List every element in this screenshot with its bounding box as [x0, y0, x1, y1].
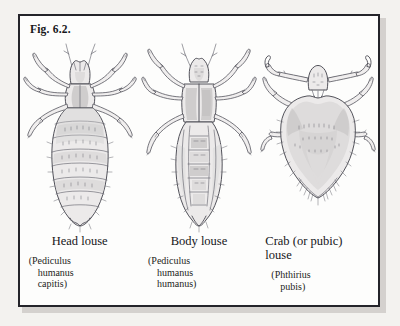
crab-louse-common-line-2: louse: [265, 248, 291, 262]
body-louse-sci-line-3: humanus): [148, 278, 258, 290]
head-louse-caption: Head louse (Pediculus humanus capitis): [21, 234, 139, 290]
crab-louse-illustration: [259, 38, 377, 234]
head-louse-sci-line-2: humanus: [29, 267, 139, 279]
head-louse-common-name: Head louse: [21, 234, 139, 248]
head-louse-sci-line-3: capitis): [29, 278, 139, 290]
crab-louse-common-name: Crab (or pubic) louse: [259, 234, 377, 262]
head-louse-illustration: [21, 38, 139, 234]
crab-louse-sci-line-1: (Phthirius: [271, 269, 310, 280]
crab-louse-scientific-name: (Phthirius pubis): [259, 269, 377, 292]
head-louse-sci-line-1: (Pediculus: [29, 255, 71, 266]
figure-frame: Fig. 6.2.: [18, 14, 380, 307]
body-louse-scientific-name: (Pediculus humanus humanus): [140, 255, 258, 290]
crab-louse-caption: Crab (or pubic) louse (Phthirius pubis): [259, 234, 377, 292]
body-louse-caption: Body louse (Pediculus humanus humanus): [140, 234, 258, 290]
crab-louse-common-line-1: Crab (or pubic): [265, 234, 342, 248]
body-louse-sci-line-1: (Pediculus: [148, 255, 190, 266]
figure-label: Fig. 6.2.: [30, 23, 71, 35]
body-louse-sci-line-2: humanus: [148, 267, 258, 279]
body-louse-illustration: [140, 38, 258, 234]
crab-louse-sci-line-2: pubis): [271, 281, 377, 293]
illustration-plate: [20, 38, 378, 234]
head-louse-scientific-name: (Pediculus humanus capitis): [21, 255, 139, 290]
body-louse-common-name: Body louse: [140, 234, 258, 248]
caption-row: Head louse (Pediculus humanus capitis) B…: [20, 234, 378, 292]
